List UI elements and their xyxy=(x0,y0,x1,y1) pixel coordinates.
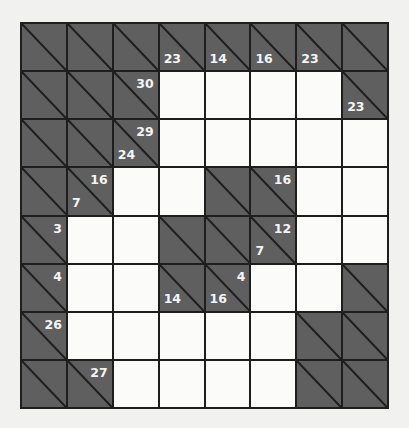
entry-cell[interactable] xyxy=(206,72,250,118)
clue-cell: 23 xyxy=(160,24,204,70)
entry-cell[interactable] xyxy=(206,361,250,407)
across-clue: 3 xyxy=(53,223,62,236)
entry-cell[interactable] xyxy=(297,217,341,263)
down-clue: 14 xyxy=(164,293,181,306)
down-clue: 7 xyxy=(255,245,264,258)
clue-cell xyxy=(68,120,112,166)
entry-cell[interactable] xyxy=(343,120,387,166)
down-clue: 7 xyxy=(72,197,81,210)
across-clue: 26 xyxy=(44,319,61,332)
across-clue: 16 xyxy=(274,174,291,187)
clue-cell xyxy=(206,217,250,263)
entry-cell[interactable] xyxy=(297,72,341,118)
entry-cell[interactable] xyxy=(160,72,204,118)
entry-cell[interactable] xyxy=(251,313,295,359)
clue-cell: 23 xyxy=(297,24,341,70)
across-clue: 27 xyxy=(90,367,107,380)
entry-cell[interactable] xyxy=(251,265,295,311)
entry-cell[interactable] xyxy=(114,217,158,263)
clue-cell xyxy=(22,72,66,118)
down-clue: 23 xyxy=(301,53,318,66)
clue-cell xyxy=(297,313,341,359)
entry-cell[interactable] xyxy=(114,313,158,359)
clue-cell: 167 xyxy=(68,168,112,214)
clue-cell xyxy=(206,168,250,214)
clue-cell: 16 xyxy=(251,24,295,70)
clue-cell: 27 xyxy=(68,361,112,407)
diagonal-divider-icon xyxy=(22,168,66,214)
clue-cell xyxy=(22,168,66,214)
diagonal-divider-icon xyxy=(22,120,66,166)
down-clue: 14 xyxy=(210,53,227,66)
clue-cell: 30 xyxy=(114,72,158,118)
entry-cell[interactable] xyxy=(251,72,295,118)
entry-cell[interactable] xyxy=(206,313,250,359)
entry-cell[interactable] xyxy=(160,313,204,359)
clue-cell: 4 xyxy=(22,265,66,311)
down-clue: 23 xyxy=(347,101,364,114)
diagonal-divider-icon xyxy=(206,217,250,263)
across-clue: 29 xyxy=(136,126,153,139)
entry-cell[interactable] xyxy=(160,120,204,166)
clue-cell: 14 xyxy=(160,265,204,311)
entry-cell[interactable] xyxy=(343,168,387,214)
clue-cell xyxy=(160,217,204,263)
entry-cell[interactable] xyxy=(297,120,341,166)
clue-cell xyxy=(343,24,387,70)
diagonal-divider-icon xyxy=(160,217,204,263)
clue-cell xyxy=(68,24,112,70)
entry-cell[interactable] xyxy=(297,265,341,311)
diagonal-divider-icon xyxy=(343,361,387,407)
diagonal-divider-icon xyxy=(68,120,112,166)
entry-cell[interactable] xyxy=(160,168,204,214)
clue-cell: 14 xyxy=(206,24,250,70)
across-clue: 4 xyxy=(237,271,246,284)
down-clue: 16 xyxy=(210,293,227,306)
clue-cell: 127 xyxy=(251,217,295,263)
entry-cell[interactable] xyxy=(114,168,158,214)
diagonal-divider-icon xyxy=(114,24,158,70)
across-clue: 16 xyxy=(90,174,107,187)
across-clue: 12 xyxy=(274,223,291,236)
entry-cell[interactable] xyxy=(251,361,295,407)
across-clue: 4 xyxy=(53,271,62,284)
down-clue: 23 xyxy=(164,53,181,66)
diagonal-divider-icon xyxy=(68,24,112,70)
entry-cell[interactable] xyxy=(114,265,158,311)
kakuro-board: 23141623302329241671631274144162627 xyxy=(20,22,389,409)
diagonal-divider-icon xyxy=(22,24,66,70)
clue-cell: 26 xyxy=(22,313,66,359)
down-clue: 16 xyxy=(255,53,272,66)
clue-cell xyxy=(297,361,341,407)
diagonal-divider-icon xyxy=(297,313,341,359)
clue-cell xyxy=(22,361,66,407)
entry-cell[interactable] xyxy=(206,120,250,166)
entry-cell[interactable] xyxy=(68,217,112,263)
entry-cell[interactable] xyxy=(251,120,295,166)
diagonal-divider-icon xyxy=(343,265,387,311)
clue-cell xyxy=(343,361,387,407)
entry-cell[interactable] xyxy=(114,361,158,407)
clue-cell xyxy=(22,120,66,166)
clue-cell: 3 xyxy=(22,217,66,263)
diagonal-divider-icon xyxy=(22,72,66,118)
diagonal-divider-icon xyxy=(68,72,112,118)
entry-cell[interactable] xyxy=(297,168,341,214)
clue-cell xyxy=(22,24,66,70)
clue-cell: 23 xyxy=(343,72,387,118)
clue-cell xyxy=(343,265,387,311)
across-clue: 30 xyxy=(136,78,153,91)
clue-cell: 416 xyxy=(206,265,250,311)
clue-cell: 16 xyxy=(251,168,295,214)
entry-cell[interactable] xyxy=(68,313,112,359)
clue-cell xyxy=(68,72,112,118)
entry-cell[interactable] xyxy=(343,217,387,263)
down-clue: 24 xyxy=(118,149,135,162)
entry-cell[interactable] xyxy=(68,265,112,311)
diagonal-divider-icon xyxy=(22,361,66,407)
diagonal-divider-icon xyxy=(343,24,387,70)
clue-cell: 2924 xyxy=(114,120,158,166)
entry-cell[interactable] xyxy=(160,361,204,407)
diagonal-divider-icon xyxy=(343,313,387,359)
diagonal-divider-icon xyxy=(297,361,341,407)
